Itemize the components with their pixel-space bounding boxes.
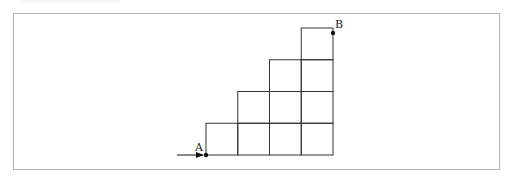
grid-cell (270, 92, 302, 124)
staircase-diagram: A B (0, 0, 510, 177)
point-b-label: B (335, 18, 343, 31)
point-a-label: A (194, 141, 204, 154)
grid-cell (301, 28, 333, 60)
grid-cell (301, 92, 333, 124)
point-a-dot (204, 153, 208, 157)
grid-cell (301, 123, 333, 155)
grid-cell (270, 123, 302, 155)
grid-cell (238, 123, 270, 155)
point-b-dot (331, 31, 335, 35)
staircase-grid (206, 28, 333, 155)
grid-cell (301, 60, 333, 92)
grid-cell (238, 92, 270, 124)
grid-cell (206, 123, 238, 155)
grid-cell (270, 60, 302, 92)
